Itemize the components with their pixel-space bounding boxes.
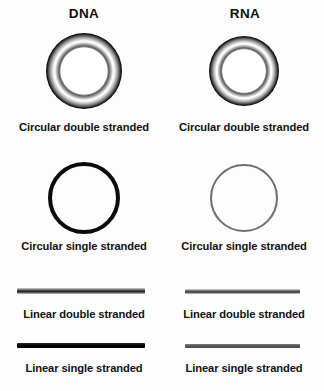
dna-circular-double-stranded-shape — [8, 32, 160, 110]
dna-linear-single-stranded-caption: Linear single stranded — [8, 362, 160, 374]
circle-outline-icon — [48, 162, 120, 234]
torus-ring-icon — [46, 33, 122, 109]
dna-circular-single-stranded-caption: Circular single stranded — [8, 240, 160, 252]
dna-linear-double-stranded-caption: Linear double stranded — [8, 308, 160, 320]
dna-circular-single-stranded-shape — [8, 160, 160, 236]
dna-linear-single-stranded-shape — [17, 343, 145, 348]
circle-outline-icon — [210, 164, 278, 232]
rna-linear-double-stranded-caption: Linear double stranded — [168, 308, 320, 320]
dna-linear-double-stranded-shape — [17, 288, 145, 294]
dna-circular-double-stranded-caption: Circular double stranded — [8, 121, 160, 133]
torus-ring-icon — [209, 36, 279, 106]
column-title-rna: RNA — [170, 6, 320, 21]
rna-circular-single-stranded-caption: Circular single stranded — [168, 240, 320, 252]
rna-linear-double-stranded-shape — [185, 289, 300, 294]
rna-circular-double-stranded-caption: Circular double stranded — [168, 121, 320, 133]
column-title-dna: DNA — [9, 6, 159, 21]
rna-circular-double-stranded-shape — [168, 34, 320, 108]
rna-linear-single-stranded-caption: Linear single stranded — [168, 362, 320, 374]
nucleic-acid-forms-figure: DNA RNA Circular double stranded Circula… — [0, 0, 324, 391]
rna-linear-single-stranded-shape — [185, 344, 300, 348]
rna-circular-single-stranded-shape — [168, 162, 320, 234]
